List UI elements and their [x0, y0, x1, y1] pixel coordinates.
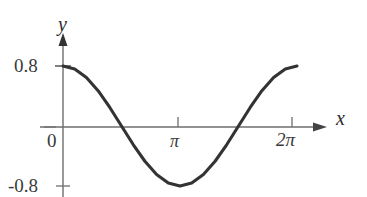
y-axis-label: y [58, 14, 67, 34]
plot-canvas [0, 0, 367, 197]
cosine-curve-figure: y x 0.8 -0.8 0 π 2π [0, 0, 367, 197]
x-tick-label-two-pi: 2π [276, 130, 295, 149]
y-tick-label-upper: 0.8 [14, 56, 38, 75]
x-tick-label-pi: π [170, 132, 179, 150]
x-axis-label: x [336, 108, 345, 128]
cosine-curve [63, 66, 297, 186]
y-tick-label-lower: -0.8 [8, 176, 38, 195]
x-axis-arrow-icon [313, 123, 327, 132]
origin-label: 0 [47, 131, 57, 150]
